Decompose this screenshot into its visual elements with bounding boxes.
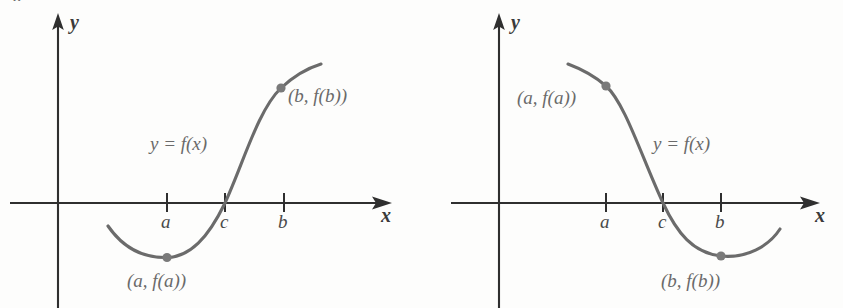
point-label-b-left: (b, f(b)) — [288, 86, 347, 105]
curve-equation-label-left: y = f(x) — [150, 134, 207, 153]
point-a-dot-left — [162, 253, 171, 262]
tick-label-c-right: c — [658, 212, 666, 231]
y-axis-right — [493, 13, 505, 308]
curve-equation-label-right: y = f(x) — [653, 134, 710, 153]
point-label-a-right: (a, f(a)) — [517, 88, 576, 107]
point-label-a-left: (a, f(a)) — [127, 271, 186, 290]
y-axis-left — [52, 13, 64, 308]
figure-panel-right: y x a c b y = f(x) (a, f(a)) (b, f(b)) — [421, 0, 842, 308]
tick-label-a-left: a — [161, 212, 171, 231]
figure-panel-left: y x a c b y = f(x) (b, f(b)) (a, f(a)) — [0, 0, 421, 308]
calculus-figure: g y x a — [0, 0, 843, 308]
tick-label-b-left: b — [278, 212, 288, 231]
point-b-dot-left — [276, 83, 285, 92]
point-a-dot-right — [601, 81, 610, 90]
y-axis-label-right: y — [511, 12, 520, 32]
y-axis-label-left: y — [70, 12, 79, 32]
x-axis-left — [10, 196, 392, 209]
x-axis-right — [451, 196, 820, 209]
tick-label-a-right: a — [600, 212, 610, 231]
tick-label-c-left: c — [220, 212, 228, 231]
point-label-b-right: (b, f(b)) — [661, 271, 720, 290]
x-axis-label-left: x — [381, 205, 391, 225]
point-b-dot-right — [716, 251, 725, 260]
x-axis-label-right: x — [815, 205, 825, 225]
tick-label-b-right: b — [715, 212, 725, 231]
